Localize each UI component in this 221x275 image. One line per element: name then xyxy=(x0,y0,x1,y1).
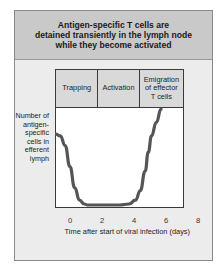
phase-trapping: Trapping xyxy=(56,70,98,107)
x-tick-4: 4 xyxy=(132,216,136,225)
x-tick-8: 8 xyxy=(196,216,200,225)
x-tick-6: 6 xyxy=(164,216,168,225)
phase-bar: Trapping Activation Emigration of effect… xyxy=(55,69,184,108)
figure-header: Antigen-specific T cells are detained tr… xyxy=(15,11,212,60)
phase-emigration: Emigration of effector T cells xyxy=(140,70,183,107)
x-axis-label: Time after start of viral infection (day… xyxy=(60,227,190,236)
plot-background xyxy=(56,108,184,208)
phase-activation: Activation xyxy=(98,70,139,107)
y-axis-label: Number of antigen- specific cells in eff… xyxy=(2,112,49,164)
x-tick-0: 0 xyxy=(68,216,72,225)
plot-area xyxy=(55,107,184,208)
figure-title: Antigen-specific T cells are detained tr… xyxy=(35,20,192,50)
x-tick-2: 2 xyxy=(100,216,104,225)
